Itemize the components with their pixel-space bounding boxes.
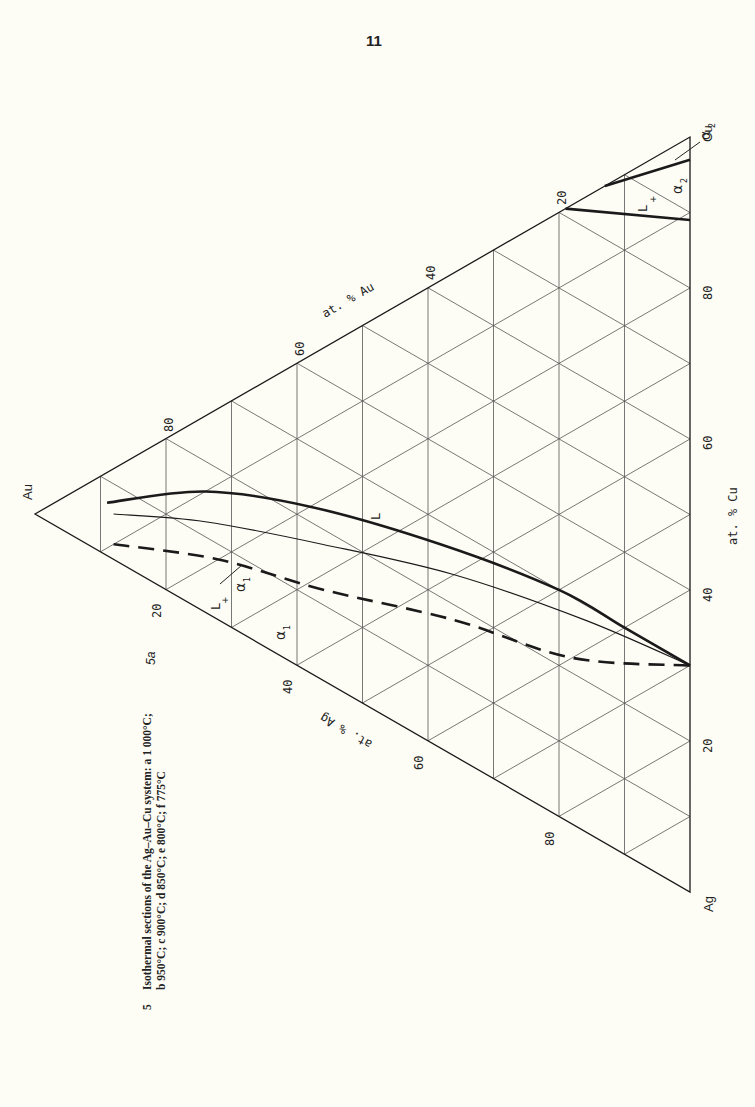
caption-line-2: b 950°C; c 900°C; d 850°C; e 800°C; f 77… (154, 713, 168, 1010)
ternary-phase-diagram: Au Cu Ag at. % Au at. % Cu at. % Ag 20 4… (0, 0, 755, 1107)
region-label-alpha2-inner: α 2 (669, 178, 689, 194)
svg-text:2: 2 (708, 123, 717, 128)
tick-ag-40: 40 (281, 680, 295, 694)
tick-ag-60: 60 (412, 756, 426, 770)
caption-number: 5 (140, 990, 154, 1010)
tick-au-80: 80 (162, 418, 176, 432)
curve-liquidus (107, 491, 690, 665)
tick-cu-20: 20 (701, 739, 715, 753)
tick-au-20: 20 (555, 191, 569, 205)
region-label-L-plus-alpha2: L + (636, 195, 658, 212)
region-label-alpha1: α 1 (272, 625, 292, 640)
svg-text:L: L (636, 205, 650, 212)
tick-cu-80: 80 (701, 286, 715, 300)
svg-text:α: α (669, 185, 685, 194)
ternary-grid (101, 175, 691, 855)
region-label-L: L (369, 513, 383, 520)
vertex-label-ag: Ag (701, 896, 716, 912)
axis-label-cu: at. % Cu (726, 487, 740, 545)
axis-label-ag: at. % Ag (317, 711, 374, 752)
svg-text:1: 1 (243, 577, 252, 582)
svg-text:α: α (272, 631, 288, 640)
phase-boundaries (107, 160, 690, 666)
region-label-L-plus-alpha1: L + α 1 (209, 565, 252, 610)
curve-cu-side (566, 209, 690, 220)
figure-caption: 5Isothermal sections of the Ag–Au–Cu sys… (140, 713, 168, 1010)
tick-au-60: 60 (293, 342, 307, 356)
tick-au-40: 40 (424, 266, 438, 280)
tick-ag-80: 80 (543, 832, 557, 846)
curve-solidus (114, 514, 690, 665)
curve-cu-side (605, 160, 690, 186)
svg-text:+: + (648, 195, 658, 203)
figure-label: 5a (144, 651, 158, 665)
caption-line-1: Isothermal sections of the Ag–Au–Cu syst… (141, 713, 153, 990)
vertex-label-au: Au (20, 484, 35, 500)
svg-text:α: α (697, 131, 713, 140)
svg-text:α: α (232, 583, 248, 592)
svg-text:1: 1 (283, 625, 292, 630)
axis-label-au: at. % Au (320, 280, 377, 321)
svg-text:2: 2 (680, 178, 689, 183)
tick-cu-60: 60 (701, 436, 715, 450)
svg-text:+: + (220, 596, 230, 604)
tick-ag-20: 20 (150, 604, 164, 618)
tick-cu-40: 40 (701, 588, 715, 602)
